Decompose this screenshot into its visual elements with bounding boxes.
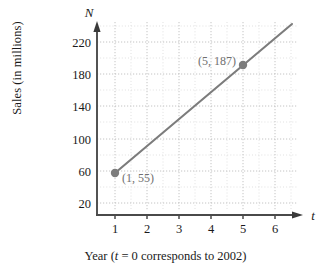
x-tick-label-5: 5 (240, 222, 246, 236)
data-point-marker-1-55 (111, 169, 119, 177)
x-axis-arrow (292, 211, 303, 218)
chart-plot-area: 220 180 140 100 60 20 1 2 3 4 5 6 N t (1… (0, 0, 331, 276)
y-tick-label-60: 60 (79, 165, 92, 179)
data-point-marker-5-187 (239, 61, 247, 69)
caption-prefix: Year ( (84, 249, 114, 263)
x-tick-label-4: 4 (208, 222, 215, 236)
x-tick-label-6: 6 (272, 222, 278, 236)
y-tick-label-20: 20 (79, 197, 92, 211)
y-tick-label-140: 140 (72, 100, 91, 114)
data-point-label-5-187: (5, 187) (198, 54, 236, 68)
x-tick-label-1: 1 (112, 222, 118, 236)
x-tick-label-3: 3 (176, 222, 182, 236)
chart-figure: 220 180 140 100 60 20 1 2 3 4 5 6 N t (1… (0, 0, 331, 276)
y-axis-title: Sales (in millions) (6, 0, 28, 148)
x-axis-symbol-label: t (311, 208, 315, 223)
x-axis-caption: Year (t = 0 corresponds to 2002) (0, 249, 331, 264)
y-tick-label-220: 220 (72, 36, 91, 50)
sales-trend-line (115, 24, 292, 173)
y-axis-arrow (93, 21, 100, 32)
x-tick-label-2: 2 (144, 222, 150, 236)
y-tick-label-100: 100 (72, 133, 91, 147)
y-tick-label-180: 180 (72, 68, 91, 82)
y-axis-symbol-label: N (84, 5, 95, 20)
data-line-group (115, 24, 292, 173)
data-point-label-1-55: (1, 55) (122, 171, 154, 185)
y-axis-title-text: Sales (in millions) (10, 21, 25, 115)
caption-suffix: = 0 corresponds to 2002) (118, 249, 246, 263)
